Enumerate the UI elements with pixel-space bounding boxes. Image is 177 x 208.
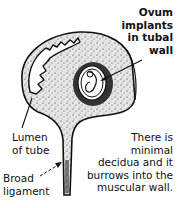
ovum-label-line-2: implants bbox=[93, 19, 173, 32]
note-line-3: decidua and it bbox=[63, 156, 173, 169]
decidua-note: There is minimal decidua and it burrows … bbox=[63, 131, 173, 194]
lumen-label-line-1: Lumen bbox=[12, 131, 49, 144]
lumen-label-line-2: of tube bbox=[12, 144, 49, 157]
note-line-5: muscular wall. bbox=[63, 181, 173, 194]
note-line-4: burrows into the bbox=[63, 169, 173, 182]
ovum-implants-label: Ovum implants in tubal wall bbox=[93, 6, 173, 56]
ovum bbox=[73, 62, 113, 106]
note-line-2: minimal bbox=[63, 144, 173, 157]
ovum-label-line-3: in tubal bbox=[93, 31, 173, 44]
broad-label-line-1: Broad bbox=[3, 172, 49, 185]
broad-ligament-label: Broad ligament bbox=[3, 172, 49, 197]
broad-label-line-2: ligament bbox=[3, 185, 49, 198]
note-line-1: There is bbox=[63, 131, 173, 144]
ligament-pointer-arrowhead bbox=[55, 162, 62, 168]
lumen-of-tube-label: Lumen of tube bbox=[12, 131, 49, 156]
ovum-label-line-1: Ovum bbox=[93, 6, 173, 19]
ovum-label-line-4: wall bbox=[93, 44, 173, 57]
